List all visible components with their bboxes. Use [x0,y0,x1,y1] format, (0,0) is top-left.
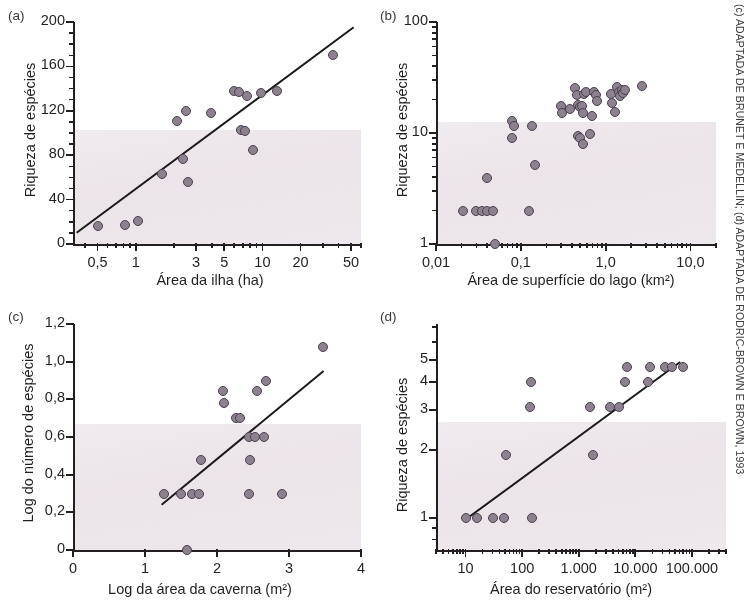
data-point [183,177,193,187]
y-minor-tick [432,149,437,151]
y-minor-tick [69,221,74,223]
x-minor-tick [677,243,679,248]
x-minor-tick [579,243,581,248]
x-minor-tick [512,243,514,248]
data-point [240,126,250,136]
data-point [472,513,482,523]
y-tick-label: 100 [368,12,428,28]
data-point [261,376,271,386]
y-tick-label: 4 [368,372,428,388]
y-tick-label: 80 [5,145,65,161]
x-tick-label: 0,01 [391,254,481,270]
x-minor-tick [689,549,691,554]
x-minor-tick [662,549,664,554]
x-minor-tick [476,243,478,248]
data-point [490,239,500,249]
data-point [458,206,468,216]
x-tick [72,549,74,557]
y-tick-label: 2 [368,440,428,456]
data-point [488,513,498,523]
data-point [328,50,338,60]
y-tick [66,199,74,201]
x-minor-tick [499,549,501,554]
x-minor-tick [546,243,548,248]
x-tick-label: 100.000 [647,560,737,576]
x-minor-tick [626,549,628,554]
data-point [93,221,103,231]
x-minor-tick [538,549,540,554]
x-minor-tick [456,549,458,554]
y-tick [66,110,74,112]
x-minor-tick [681,243,683,248]
y-minor-tick [69,55,74,57]
x-minor-tick [578,549,580,554]
panel-b: (b) Riqueza de espécies Área de superfíc… [376,0,752,300]
data-point [678,362,688,372]
y-tick [66,154,74,156]
y-minor-tick [69,188,74,190]
data-point [157,169,167,179]
data-point [610,107,620,117]
x-minor-tick [504,549,506,554]
y-minor-tick [432,326,437,328]
x-minor-tick [223,243,225,248]
x-minor-tick [115,243,117,248]
data-point [259,432,269,442]
y-tick-label: 1,2 [5,314,65,330]
data-point [637,81,647,91]
data-point [527,513,537,523]
y-minor-tick [432,143,437,145]
data-point [182,545,192,555]
y-tick-label: 10 [368,123,428,139]
data-point [194,489,204,499]
y-minor-tick [432,341,437,343]
x-tick-label: 10,0 [645,254,735,270]
panel-b-x-axis-title: Área de superfície do lago (km²) [406,272,736,288]
y-minor-tick [432,46,437,48]
x-minor-tick [492,549,494,554]
data-point [176,489,186,499]
x-minor-tick [452,549,454,554]
y-tick [66,511,74,513]
y-tick [66,474,74,476]
y-minor-tick [69,121,74,123]
data-point [181,106,191,116]
data-point [318,342,328,352]
data-point [244,489,254,499]
x-minor-tick [592,243,594,248]
x-minor-tick [509,549,511,554]
y-tick-label: 0,4 [5,465,65,481]
data-point [578,139,588,149]
x-minor-tick [656,243,658,248]
x-minor-tick [632,549,634,554]
background-watermark [436,422,726,550]
data-point [527,121,537,131]
species-area-figure: (a) Riqueza de espécies Área da ilha (ha… [0,0,752,609]
y-minor-tick [432,79,437,81]
y-tick [66,21,74,23]
y-minor-tick [69,77,74,79]
data-point [196,455,206,465]
data-point [120,220,130,230]
y-minor-tick [432,176,437,178]
y-minor-tick [432,137,437,139]
data-point [620,377,630,387]
x-minor-tick [629,549,631,554]
data-point [461,513,471,523]
data-point [501,450,511,460]
data-point [643,377,653,387]
x-minor-tick [459,549,461,554]
data-point [206,108,216,118]
x-minor-tick [350,243,352,248]
x-minor-tick [516,549,518,554]
data-point [526,377,536,387]
x-minor-tick [575,549,577,554]
x-minor-tick [682,549,684,554]
y-minor-tick [69,43,74,45]
y-tick-label: 1 [368,508,428,524]
x-minor-tick [679,549,681,554]
trend-line [161,370,324,505]
x-minor-tick [645,243,647,248]
x-minor-tick [129,243,131,248]
x-minor-tick [664,243,666,248]
